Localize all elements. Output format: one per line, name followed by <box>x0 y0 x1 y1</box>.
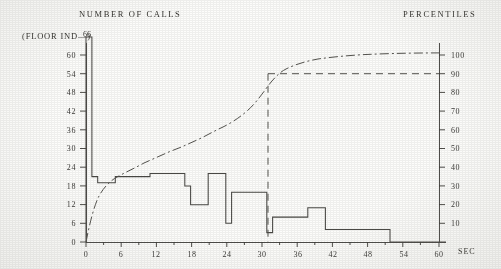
cumulative-percentile-curve <box>86 53 439 242</box>
chart-canvas <box>0 0 501 269</box>
x-axis-ticks <box>86 242 439 247</box>
histogram-step-outline <box>86 37 446 242</box>
left-axis-ticks <box>80 55 86 242</box>
chart-root: NUMBER OF CALLS PERCENTILES (FLOOR IND—)… <box>0 0 501 269</box>
right-axis-ticks <box>439 55 445 223</box>
